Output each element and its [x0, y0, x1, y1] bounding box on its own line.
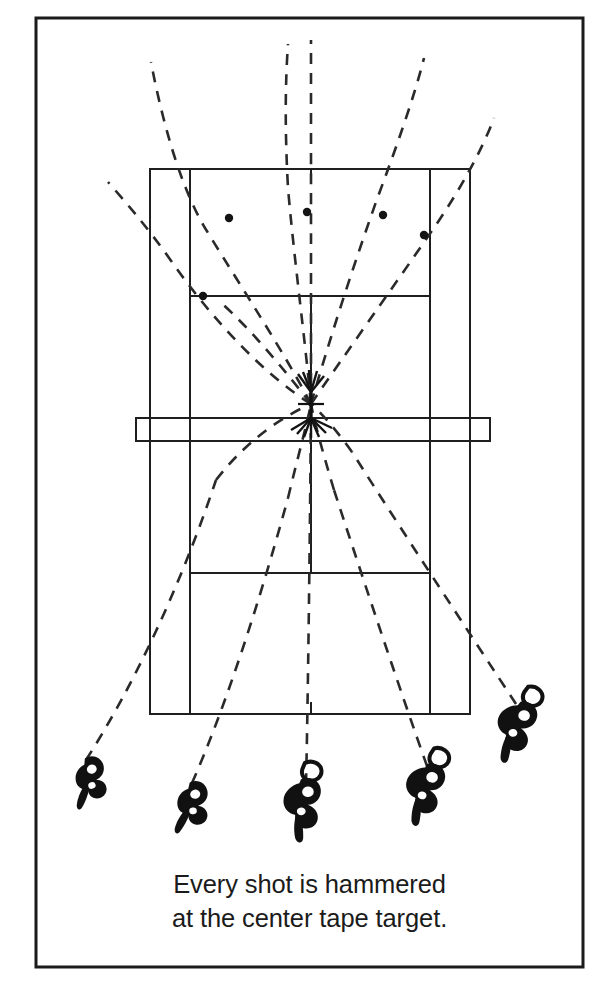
figure-root: Every shot is hammered at the center tap…: [0, 0, 607, 987]
bounce-dot: [303, 208, 311, 216]
player-head: [424, 770, 440, 785]
player-shoulder: [416, 789, 429, 801]
player-head: [188, 787, 202, 801]
player-shoulder: [506, 726, 520, 739]
caption-line-1: Every shot is hammered: [36, 868, 583, 902]
player-head: [516, 707, 533, 723]
paper-background: [0, 0, 607, 987]
bounce-dot: [379, 211, 387, 219]
bounce-dot: [199, 292, 207, 300]
player-head: [300, 784, 316, 799]
bounce-dot: [225, 214, 233, 222]
caption-line-2: at the center tape target.: [36, 902, 583, 936]
bounce-dot: [420, 231, 428, 239]
court-diagram: [0, 0, 607, 987]
player-shoulder: [295, 805, 308, 817]
player-shoulder: [187, 805, 199, 816]
figure-caption: Every shot is hammered at the center tap…: [36, 868, 583, 935]
